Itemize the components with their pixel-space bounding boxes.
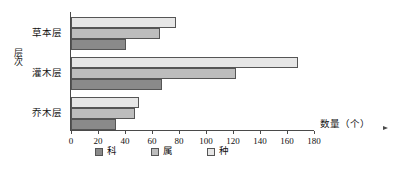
- bar-shrub-zhong: [71, 57, 298, 68]
- bar-herb-zhong: [71, 17, 176, 28]
- x-axis-tick: [233, 131, 234, 134]
- legend-swatch-icon-shu: [151, 148, 159, 156]
- legend-label-ke: 科: [107, 146, 117, 157]
- bar-tree-zhong: [71, 97, 139, 108]
- bar-herb-shu: [71, 28, 160, 39]
- x-axis-arrow-icon: [383, 126, 388, 130]
- x-axis-tick-label: 180: [302, 136, 326, 147]
- x-axis-tick: [287, 131, 288, 134]
- x-axis-tick: [206, 131, 207, 134]
- legend-item-zhong: 种: [207, 146, 229, 157]
- bar-shrub-shu: [71, 68, 236, 79]
- x-axis-tick: [71, 131, 72, 134]
- x-axis-tick: [152, 131, 153, 134]
- x-axis-tick-label: 0: [59, 136, 83, 147]
- category-label-tree: 乔木层: [26, 108, 68, 119]
- bar-chart: 层次 草本层 灌木层 乔木层 020406080100120140160180 …: [0, 0, 395, 172]
- y-axis-category-labels: 草本层 灌木层 乔木层: [24, 12, 68, 130]
- category-label-shrub: 灌木层: [26, 68, 68, 79]
- legend-swatch-icon-ke: [95, 148, 103, 156]
- legend-item-ke: 科: [95, 146, 117, 157]
- x-axis-tick: [125, 131, 126, 134]
- legend-label-shu: 属: [163, 146, 173, 157]
- legend: 科 属 种: [95, 146, 305, 162]
- x-axis-tick: [260, 131, 261, 134]
- category-label-herb: 草本层: [26, 28, 68, 39]
- legend-label-zhong: 种: [219, 146, 229, 157]
- plot-area: 020406080100120140160180: [70, 12, 314, 130]
- bar-herb-ke: [71, 39, 126, 50]
- y-axis-title: 层次: [9, 48, 23, 66]
- x-axis-tick: [314, 131, 315, 134]
- bar-tree-shu: [71, 108, 135, 119]
- x-axis-tick: [179, 131, 180, 134]
- legend-item-shu: 属: [151, 146, 173, 157]
- x-axis-title: 数量（个）: [320, 119, 370, 130]
- legend-swatch-icon-zhong: [207, 148, 215, 156]
- bar-tree-ke: [71, 119, 116, 130]
- x-axis-tick: [98, 131, 99, 134]
- x-axis-line: [70, 130, 314, 131]
- bar-shrub-ke: [71, 79, 162, 90]
